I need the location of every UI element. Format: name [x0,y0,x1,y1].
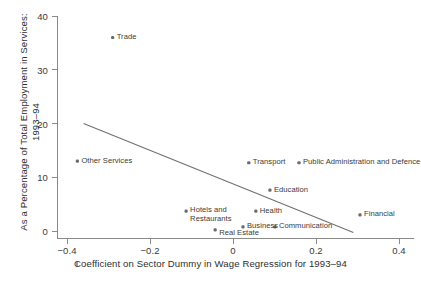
data-point-label: Education [274,186,308,195]
data-point-marker[interactable] [247,161,250,164]
x-tick-label: −0.4 [57,245,76,256]
data-point-label: Financial [364,210,395,219]
data-point-marker[interactable] [185,210,188,213]
data-point-marker[interactable] [111,36,114,39]
x-tick-label: −0.2 [140,245,159,256]
data-point-label: Real Estate [219,229,259,238]
data-point-label: Public Administration and Defence [303,158,420,167]
data-point-marker[interactable] [358,213,361,216]
x-tick-label: 0.4 [392,245,406,256]
data-point-marker[interactable] [297,161,300,164]
scatter-chart-figure: 010203040 −0.4−0.200.20.4 TradeOther Ser… [0,0,421,284]
x-tick-label: 0 [230,245,235,256]
x-tick-marks [67,239,399,245]
plot-canvas [0,0,421,284]
y-tick-marks [52,16,58,231]
data-point-label: Communication [279,222,332,231]
data-point-marker[interactable] [254,210,257,213]
data-point-marker[interactable] [76,160,79,163]
x-axis-title: Coefficient on Sector Dummy in Wage Regr… [0,258,421,269]
y-axis-title: As a Percentage of Total Employment in S… [18,7,42,237]
data-point-marker[interactable] [214,228,217,231]
data-point-marker[interactable] [268,189,271,192]
data-point-label: Health [260,207,282,216]
x-tick-label: 0.2 [309,245,323,256]
data-point-markers [76,36,362,232]
data-point-label: Trade [117,33,137,42]
data-point-label: Other Services [81,157,132,166]
data-point-label: Hotels and Restaurants [190,206,242,223]
data-point-label: Transport [253,158,286,167]
